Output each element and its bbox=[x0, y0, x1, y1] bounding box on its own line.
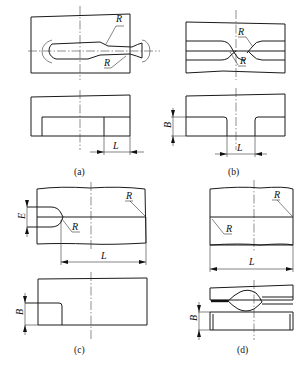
radius-label: R bbox=[273, 189, 280, 200]
radius-label: R bbox=[115, 13, 122, 24]
width-label: B bbox=[14, 309, 25, 315]
technical-diagram: R R L (a) bbox=[0, 0, 307, 367]
radius-label: R bbox=[225, 223, 232, 234]
radius-label: R bbox=[103, 57, 110, 68]
length-label: L bbox=[236, 142, 243, 153]
width-label: B bbox=[162, 122, 173, 128]
caption-b: (b) bbox=[228, 167, 239, 178]
panel-a-top-view bbox=[28, 6, 160, 80]
panel-d-side-view bbox=[197, 280, 293, 340]
radius-label: R bbox=[125, 190, 132, 201]
length-label: L bbox=[248, 256, 255, 267]
panel-b: R R B L (b) bbox=[162, 10, 285, 178]
panel-c: E R R L B (c) bbox=[14, 182, 147, 356]
radius-label: R bbox=[71, 221, 78, 232]
panel-b-side-view bbox=[171, 88, 285, 157]
length-label: L bbox=[100, 250, 107, 261]
width-label: B bbox=[188, 315, 199, 321]
panel-c-side-view bbox=[23, 272, 147, 340]
slot-width-label: E bbox=[16, 213, 27, 220]
panel-b-top-view bbox=[186, 10, 285, 80]
length-label: L bbox=[112, 140, 119, 151]
caption-d: (d) bbox=[237, 345, 248, 356]
caption-a: (a) bbox=[74, 167, 85, 178]
radius-label: R bbox=[239, 55, 246, 66]
caption-c: (c) bbox=[74, 345, 85, 356]
radius-label: R bbox=[237, 26, 244, 37]
panel-d: R R L B (d) bbox=[188, 180, 293, 356]
panel-a: R R L (a) bbox=[28, 6, 160, 178]
panel-a-side-view bbox=[31, 90, 144, 155]
